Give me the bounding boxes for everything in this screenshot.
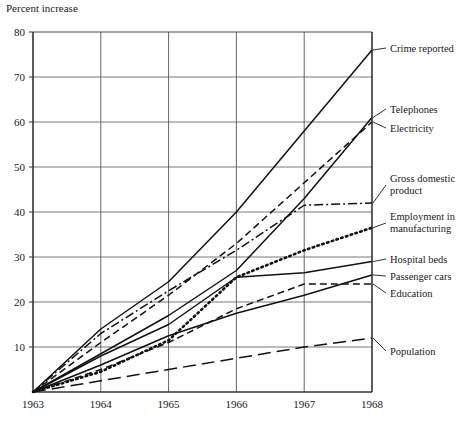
x-tick-label: 1965	[158, 398, 181, 410]
series-labels-layer: Crime reportedTelephonesElectricityGross…	[390, 43, 456, 357]
leader-line-employment-in-manufacturing	[373, 223, 386, 228]
series-label-line: product	[390, 185, 422, 196]
leader-line-telephones	[373, 109, 386, 118]
leader-line-passenger-cars	[373, 275, 386, 276]
series-label-line: Electricity	[390, 123, 434, 134]
series-label-line: Hospital beds	[390, 254, 447, 265]
series-line-telephones	[33, 118, 372, 393]
x-axis-tick-labels: 196319641965196619671968	[22, 398, 384, 410]
x-tick-label: 1968	[361, 398, 384, 410]
y-tick-label: 70	[14, 71, 26, 83]
series-label-population: Population	[390, 346, 436, 357]
series-label-line: Population	[390, 346, 436, 357]
y-tick-label: 60	[14, 116, 26, 128]
series-label-passenger-cars: Passenger cars	[390, 271, 452, 282]
y-tick-label: 80	[14, 26, 26, 38]
leader-line-education	[373, 284, 386, 293]
y-tick-label: 10	[14, 341, 26, 353]
x-tick-label: 1967	[293, 398, 316, 410]
y-tick-label: 30	[14, 251, 26, 263]
y-tick-label: 20	[14, 296, 26, 308]
y-axis-title: Percent increase	[6, 2, 78, 14]
x-tick-label: 1964	[90, 398, 113, 410]
series-leader-lines	[373, 48, 386, 351]
series-label-employment-in-manufacturing: Employment inmanufacturing	[390, 211, 456, 234]
series-label-hospital-beds: Hospital beds	[390, 254, 447, 265]
series-line-employment-in-manufacturing	[33, 228, 372, 392]
leader-line-crime-reported	[373, 48, 386, 50]
x-tick-label: 1963	[22, 398, 45, 410]
grid-layer	[33, 32, 372, 392]
leader-line-gross-domestic-product	[373, 185, 386, 203]
y-axis-tick-labels: 1020304050607080	[14, 26, 33, 353]
series-label-telephones: Telephones	[390, 104, 438, 115]
leader-line-population	[373, 338, 386, 351]
series-label-line: Employment in	[390, 211, 456, 222]
series-label-line: Gross domestic	[390, 173, 455, 184]
y-tick-label: 40	[14, 206, 26, 218]
series-label-education: Education	[390, 288, 433, 299]
x-tick-label: 1966	[225, 398, 248, 410]
series-label-line: Passenger cars	[390, 271, 452, 282]
series-line-crime-reported	[33, 50, 372, 392]
leader-line-hospital-beds	[373, 259, 386, 262]
chart-canvas: 1020304050607080 19631964196519661967196…	[0, 0, 473, 424]
series-label-line: Crime reported	[390, 43, 455, 54]
series-label-line: Education	[390, 288, 433, 299]
series-label-gross-domestic-product: Gross domesticproduct	[390, 173, 455, 196]
percent-increase-line-chart: 1020304050607080 19631964196519661967196…	[0, 0, 473, 424]
series-lines-layer	[33, 50, 372, 392]
series-label-line: manufacturing	[390, 223, 452, 234]
series-label-line: Telephones	[390, 104, 438, 115]
y-tick-label: 50	[14, 161, 26, 173]
leader-line-electricity	[373, 122, 386, 128]
series-label-crime-reported: Crime reported	[390, 43, 455, 54]
series-label-electricity: Electricity	[390, 123, 434, 134]
